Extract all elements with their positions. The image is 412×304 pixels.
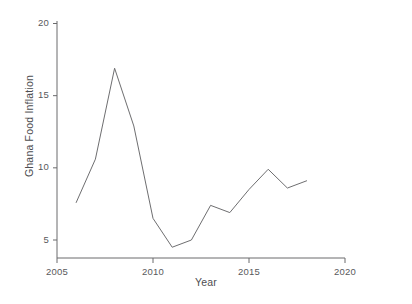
x-tick-marks (57, 258, 345, 263)
y-tick-label: 20 (11, 17, 49, 28)
y-tick-marks (53, 24, 57, 241)
plot-area (0, 0, 412, 304)
data-series-line (76, 68, 306, 247)
y-axis-title: Ghana Food Inflation (23, 36, 35, 216)
x-axis-title: Year (0, 276, 412, 288)
y-tick-label: 5 (11, 234, 49, 245)
chart-container: 5101520 2005201020152020 Year Ghana Food… (0, 0, 412, 304)
